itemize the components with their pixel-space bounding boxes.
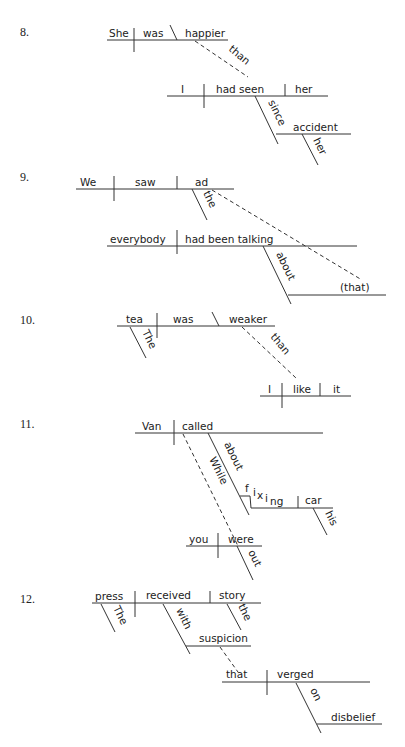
word-adverb: out <box>246 548 264 569</box>
complement-divider <box>212 312 219 326</box>
word-prep: about <box>222 440 246 472</box>
complement-divider <box>170 25 177 40</box>
word-sub-subject: everybody <box>110 233 166 245</box>
word-sub-subject: I <box>268 383 271 395</box>
word-object: story <box>219 589 246 601</box>
word-gerund-x: x <box>257 489 263 501</box>
word-verb: called <box>182 420 213 432</box>
word-sub-verb: had been talking <box>185 233 273 245</box>
word-conj: than <box>268 331 293 357</box>
word-prep-object: suspicion <box>199 632 248 644</box>
word-sub-verb: had seen <box>216 83 264 95</box>
word-rel-prep: on <box>308 686 325 703</box>
word-conj: While <box>207 455 231 487</box>
word-subject: She <box>109 27 129 39</box>
word-modifier: his <box>323 509 340 528</box>
word-sub-object: her <box>295 83 313 95</box>
word-subject: press <box>95 590 123 602</box>
word-conj: than <box>227 42 253 67</box>
word-prep-object: accident <box>293 121 338 133</box>
word-rel-verb: verged <box>277 668 314 680</box>
word-prep: since <box>266 98 289 128</box>
sentence-diagrams-page: 8. She was happier than I had seen her s… <box>0 0 405 747</box>
word-verb: received <box>146 589 191 601</box>
word-complement: happier <box>185 27 226 39</box>
word-verb: saw <box>135 176 156 188</box>
diagram-8: 8. She was happier than I had seen her s… <box>20 25 351 165</box>
word-article: the <box>201 189 219 210</box>
diagram-number: 10. <box>20 313 35 327</box>
word-sub-verb: were <box>228 533 254 545</box>
word-sub-object: it <box>333 383 340 395</box>
word-gerund-f: f <box>245 482 249 494</box>
diagram-10: 10. tea was weaker The than I like it <box>20 312 351 408</box>
word-gerund-object: car <box>305 494 322 506</box>
word-complement: weaker <box>229 313 268 325</box>
word-rel-prep-object: disbelief <box>331 711 375 723</box>
word-modifier: her <box>311 136 330 158</box>
word-prep: with <box>174 606 195 631</box>
word-sub-subject: I <box>181 83 184 95</box>
word-subject: We <box>80 176 96 188</box>
word-object: ad <box>195 176 208 188</box>
word-prep-object: (that) <box>340 281 370 293</box>
word-sub-verb: like <box>293 383 311 395</box>
word-subject: tea <box>126 313 143 325</box>
word-gerund-ng: ng <box>270 495 283 507</box>
word-article: The <box>111 603 131 627</box>
word-sub-subject: you <box>189 533 208 545</box>
diagram-number: 12. <box>20 592 35 606</box>
word-rel-subject: that <box>226 668 247 680</box>
word-object-article: the <box>236 602 254 623</box>
diagram-number: 11. <box>20 417 35 431</box>
diagram-12: 12. press received story The the with su… <box>20 589 382 733</box>
diagram-11: 11. Van called about f i x i ng car his … <box>20 417 341 580</box>
word-gerund-i2: i <box>265 492 268 504</box>
word-gerund-i: i <box>253 486 256 498</box>
diagram-9: 9. We saw ad the everybody had been talk… <box>20 170 386 304</box>
word-verb: was <box>143 27 164 39</box>
diagram-number: 9. <box>20 170 29 184</box>
word-verb: was <box>173 313 194 325</box>
word-subject: Van <box>142 420 161 432</box>
diagram-number: 8. <box>20 25 29 39</box>
